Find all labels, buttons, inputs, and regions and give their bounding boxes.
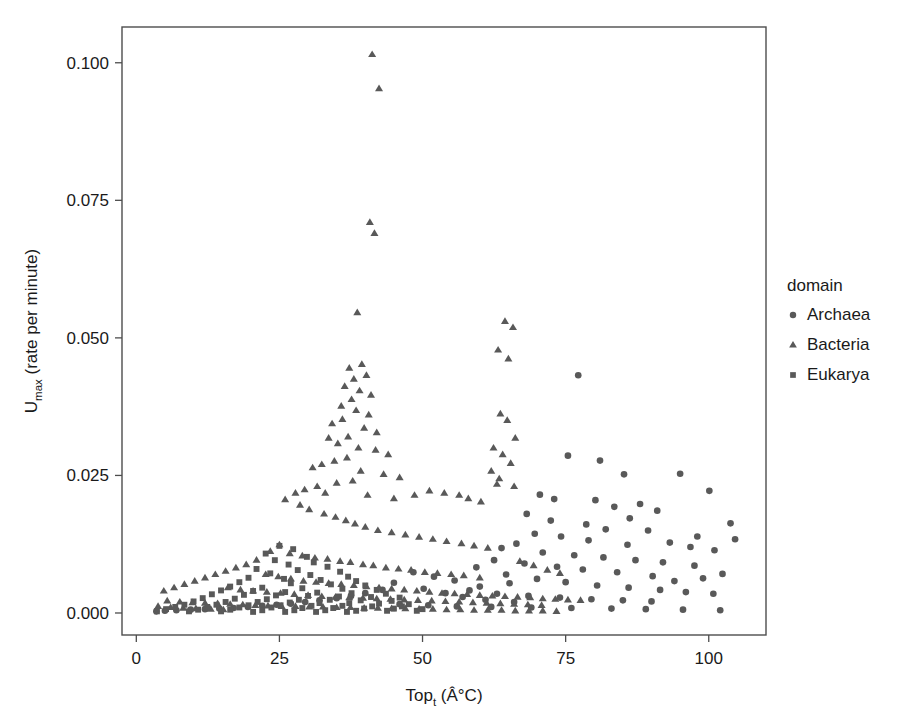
data-point-circle <box>562 579 569 586</box>
data-point-circle <box>491 557 498 564</box>
data-point-square <box>358 597 364 603</box>
data-point-circle <box>473 564 480 571</box>
data-point-square <box>339 586 345 592</box>
data-point-square <box>223 599 229 605</box>
data-point-square <box>186 608 192 614</box>
data-point-circle <box>680 606 687 613</box>
y-tick-label: 0.050 <box>66 329 109 348</box>
legend-title: domain <box>787 276 843 295</box>
data-point-square <box>353 578 359 584</box>
data-point-circle <box>637 501 644 508</box>
data-point-square <box>399 603 405 609</box>
data-point-circle <box>706 488 713 495</box>
data-point-square <box>273 592 279 598</box>
data-point-square <box>353 608 359 614</box>
data-point-square <box>305 593 311 599</box>
data-point-square <box>250 588 256 594</box>
data-point-square <box>362 583 368 589</box>
data-point-square <box>259 585 265 591</box>
data-point-square <box>255 599 261 605</box>
data-point-square <box>272 557 278 563</box>
data-point-square <box>227 584 233 590</box>
data-point-square <box>369 603 375 609</box>
data-point-square <box>278 602 284 608</box>
data-point-square <box>172 604 178 610</box>
data-point-square <box>349 590 355 596</box>
data-point-square <box>236 605 242 611</box>
data-point-square <box>309 603 315 609</box>
data-point-circle <box>608 605 615 612</box>
data-point-square <box>384 608 390 614</box>
y-axis-title-subscript: max <box>32 379 44 401</box>
data-point-circle <box>592 497 599 504</box>
data-point-circle <box>451 577 458 584</box>
data-point-circle <box>717 607 724 614</box>
data-point-circle <box>600 554 607 561</box>
x-tick-label: 25 <box>270 649 289 668</box>
data-point-square <box>376 601 382 607</box>
x-tick-label: 0 <box>132 649 141 668</box>
data-point-square <box>218 587 224 593</box>
data-point-square <box>246 575 252 581</box>
legend-marker-square <box>790 372 796 378</box>
x-tick-label: 75 <box>556 649 575 668</box>
data-point-circle <box>565 452 572 459</box>
data-point-square <box>241 592 247 598</box>
data-point-circle <box>648 598 655 605</box>
data-point-circle <box>660 559 667 566</box>
data-point-circle <box>558 533 565 540</box>
y-tick-label: 0.075 <box>66 191 109 210</box>
data-point-square <box>154 608 160 614</box>
data-point-circle <box>649 573 656 580</box>
data-point-square <box>368 594 374 600</box>
data-point-square <box>322 607 328 613</box>
data-point-circle <box>677 470 684 477</box>
data-point-square <box>299 585 305 591</box>
x-tick-label: 100 <box>695 649 723 668</box>
data-point-square <box>250 609 256 615</box>
data-point-circle <box>554 563 561 570</box>
data-point-square <box>420 606 426 612</box>
data-point-square <box>361 606 367 612</box>
data-point-square <box>288 580 294 586</box>
data-point-square <box>286 562 292 568</box>
figure-background <box>0 0 918 725</box>
y-tick-label: 0.025 <box>66 466 109 485</box>
data-point-square <box>227 607 233 613</box>
y-axis-title-units: (rate per minute) <box>22 249 41 379</box>
y-tick-label: 0.100 <box>66 54 109 73</box>
data-point-circle <box>476 583 483 590</box>
data-point-circle <box>579 566 586 573</box>
data-point-square <box>311 559 317 565</box>
data-point-circle <box>594 582 601 589</box>
data-point-square <box>336 594 342 600</box>
data-point-square <box>218 608 224 614</box>
data-point-circle <box>642 606 649 613</box>
data-point-circle <box>719 571 726 578</box>
data-point-square <box>282 589 288 595</box>
x-axis-title-units: (Â°C) <box>436 686 482 705</box>
data-point-square <box>299 605 305 611</box>
data-point-square <box>344 609 350 615</box>
data-point-circle <box>547 517 554 524</box>
data-point-circle <box>614 569 621 576</box>
data-point-square <box>268 605 274 611</box>
data-point-square <box>267 570 273 576</box>
data-point-circle <box>602 526 609 533</box>
data-point-circle <box>625 584 632 591</box>
data-point-circle <box>683 589 690 596</box>
scatter-plot-figure: 0.0000.0250.0500.0750.100 Umax (rate per… <box>0 0 918 725</box>
data-point-circle <box>523 511 530 518</box>
data-point-square <box>330 605 336 611</box>
data-point-square <box>246 602 252 608</box>
data-point-square <box>209 591 215 597</box>
data-point-square <box>328 581 334 587</box>
data-point-square <box>318 577 324 583</box>
data-point-circle <box>691 562 698 569</box>
data-point-circle <box>611 503 618 510</box>
data-point-circle <box>732 536 739 543</box>
y-axis-title-base: U <box>22 401 41 413</box>
data-point-circle <box>687 544 694 551</box>
data-point-square <box>374 587 380 593</box>
data-point-square <box>254 566 260 572</box>
